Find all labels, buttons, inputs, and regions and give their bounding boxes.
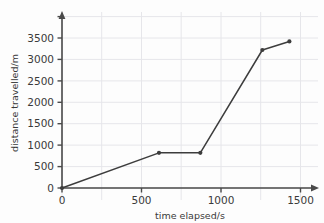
- y-axis-title: distance travelled/m: [9, 54, 20, 152]
- chart-page: 0 500 1000 1500 2000 2500 3000 3500 0 50…: [0, 0, 324, 223]
- x-axis-title: time elapsed/s: [155, 210, 225, 221]
- y-tick-label-3500: 3500: [27, 32, 54, 44]
- y-tick-label-0: 0: [47, 182, 54, 194]
- y-tick-label-1500: 1500: [27, 117, 54, 129]
- data-point: [60, 186, 64, 190]
- y-tick-label-2000: 2000: [27, 96, 54, 108]
- y-tick-label-1000: 1000: [27, 139, 54, 151]
- data-point: [287, 39, 291, 43]
- y-tick-label-2500: 2500: [27, 75, 54, 87]
- x-tick-label-500: 500: [131, 194, 151, 206]
- y-tick-label-500: 500: [34, 160, 54, 172]
- x-tick-label-1500: 1500: [287, 194, 314, 206]
- y-tick-label-3000: 3000: [27, 53, 54, 65]
- data-point: [157, 151, 161, 155]
- data-point: [198, 151, 202, 155]
- distance-time-chart: 0 500 1000 1500 2000 2500 3000 3500 0 50…: [0, 0, 324, 223]
- data-point: [260, 48, 264, 52]
- x-tick-label-0: 0: [59, 194, 66, 206]
- x-tick-label-1000: 1000: [208, 194, 235, 206]
